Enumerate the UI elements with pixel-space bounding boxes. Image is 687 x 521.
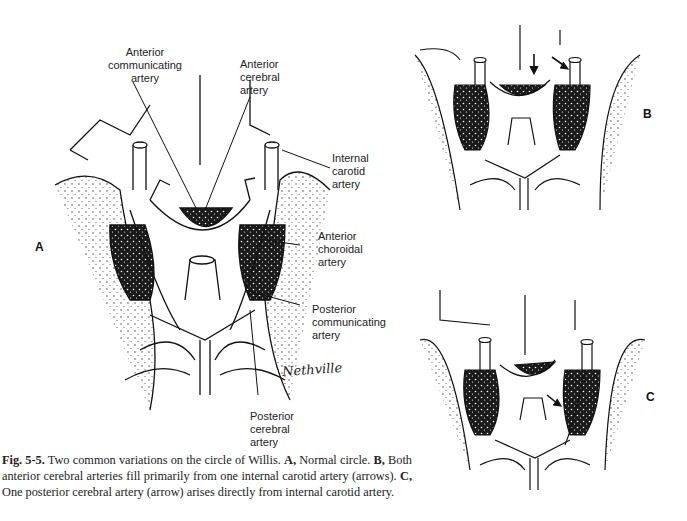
label-line: communicating xyxy=(108,59,182,72)
label-line: communicating xyxy=(312,316,386,329)
label-line: artery xyxy=(332,178,369,191)
label-line: artery xyxy=(318,256,363,269)
panel-b-drawing xyxy=(415,25,640,210)
caption-intro: Two common variations on the circle of W… xyxy=(45,453,284,467)
label-line: artery xyxy=(240,84,280,97)
label-line: artery xyxy=(108,72,182,85)
label-internal-carotid-artery: Internal carotid artery xyxy=(332,152,369,191)
panel-c-drawing xyxy=(420,290,645,490)
label-anterior-cerebral-artery: Anterior cerebral artery xyxy=(240,58,280,97)
caption-a-text: Normal circle. xyxy=(296,453,374,467)
label-line: Internal xyxy=(332,152,369,165)
label-line: Anterior xyxy=(318,230,363,243)
caption-c-text: One posterior cerebral artery (arrow) ar… xyxy=(2,485,394,499)
panel-letter-c: C xyxy=(646,390,655,404)
panel-a-drawing xyxy=(55,75,330,410)
label-anterior-choroidal-artery: Anterior choroidal artery xyxy=(318,230,363,269)
label-line: artery xyxy=(312,329,386,342)
label-line: Anterior xyxy=(108,46,182,59)
label-anterior-communicating-artery: Anterior communicating artery xyxy=(108,46,182,85)
label-line: artery xyxy=(250,436,294,449)
caption-c-letter: C, xyxy=(400,469,412,483)
label-posterior-cerebral-artery: Posterior cerebral artery xyxy=(250,410,294,449)
label-posterior-communicating-artery: Posterior communicating artery xyxy=(312,303,386,342)
label-line: carotid xyxy=(332,165,369,178)
figure-caption: Fig. 5-5. Two common variations on the c… xyxy=(2,452,412,500)
label-line: cerebral xyxy=(240,71,280,84)
label-line: cerebral xyxy=(250,423,294,436)
caption-fig-number: Fig. 5-5. xyxy=(2,453,45,467)
panel-letter-b: B xyxy=(643,107,652,121)
label-line: Posterior xyxy=(250,410,294,423)
caption-b-letter: B, xyxy=(374,453,385,467)
label-line: Posterior xyxy=(312,303,386,316)
panel-letter-a: A xyxy=(35,240,44,254)
label-line: Anterior xyxy=(240,58,280,71)
label-line: choroidal xyxy=(318,243,363,256)
caption-a-letter: A, xyxy=(284,453,296,467)
